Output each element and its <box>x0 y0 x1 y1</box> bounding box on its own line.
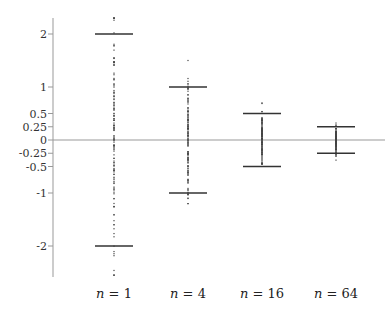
data-point <box>113 85 114 86</box>
data-point <box>113 214 114 215</box>
y-tick-label: 0.25 <box>23 121 48 134</box>
data-point <box>113 124 114 125</box>
data-point <box>187 99 188 100</box>
data-point <box>113 255 114 256</box>
y-tick-label: -0.25 <box>19 147 47 160</box>
data-point <box>335 130 336 131</box>
data-point <box>113 139 114 140</box>
data-point <box>113 20 114 21</box>
data-point <box>113 183 114 184</box>
data-point <box>187 103 188 104</box>
data-point <box>261 127 262 128</box>
data-point <box>113 79 114 80</box>
data-point <box>187 182 188 183</box>
data-point <box>335 142 336 143</box>
data-point <box>187 189 188 190</box>
data-point <box>261 142 262 143</box>
data-point <box>113 149 114 150</box>
data-point <box>113 233 114 234</box>
data-point <box>187 170 188 171</box>
data-point <box>187 136 188 137</box>
data-point <box>113 87 114 88</box>
data-point-extreme <box>187 203 188 204</box>
y-tick-label: 0.5 <box>30 108 48 121</box>
data-point <box>113 144 114 145</box>
data-point <box>261 137 262 138</box>
data-point <box>187 88 188 89</box>
chart-canvas: 210.50.250-0.25-0.5-1-2 n = 1n = 4n = 16… <box>0 0 385 309</box>
data-point <box>113 105 114 106</box>
data-point <box>113 220 114 221</box>
y-tick-label: -0.5 <box>26 161 47 174</box>
data-point <box>187 168 188 169</box>
data-point <box>113 92 114 93</box>
data-point <box>187 126 188 127</box>
data-point <box>261 159 262 160</box>
data-point <box>187 133 188 134</box>
data-point <box>187 154 188 155</box>
data-point <box>261 124 262 125</box>
data-point <box>113 203 114 204</box>
data-point <box>335 129 336 130</box>
x-category-labels: n = 1n = 4n = 16n = 64 <box>96 286 358 301</box>
data-point <box>187 128 188 129</box>
data-point <box>261 136 262 137</box>
data-point <box>113 174 114 175</box>
data-point <box>113 186 114 187</box>
data-point <box>113 170 114 171</box>
data-point <box>187 174 188 175</box>
data-point <box>187 119 188 120</box>
data-point <box>113 206 114 207</box>
data-point <box>113 115 114 116</box>
y-tick-label: -1 <box>36 187 47 200</box>
data-point <box>113 93 114 94</box>
data-point <box>187 194 188 195</box>
data-point-extreme <box>261 102 262 103</box>
data-point <box>113 142 114 143</box>
data-point <box>113 44 114 45</box>
data-point <box>187 135 188 136</box>
data-point <box>113 154 114 155</box>
data-point <box>335 144 336 145</box>
data-point <box>187 115 188 116</box>
data-point <box>113 83 114 84</box>
data-point <box>187 166 188 167</box>
data-point <box>261 156 262 157</box>
data-point <box>113 151 114 152</box>
data-point <box>113 73 114 74</box>
data-point <box>113 177 114 178</box>
y-tick-label: -2 <box>36 240 47 253</box>
data-point <box>113 190 114 191</box>
data-point <box>187 188 188 189</box>
data-point <box>113 74 114 75</box>
data-point <box>113 110 114 111</box>
data-point-extreme <box>335 160 336 161</box>
y-tick-label: 0 <box>40 134 47 147</box>
data-point <box>113 158 114 159</box>
data-point <box>113 45 114 46</box>
data-point <box>335 138 336 139</box>
data-point <box>113 198 114 199</box>
data-point <box>187 94 188 95</box>
data-point <box>113 179 114 180</box>
data-point <box>335 145 336 146</box>
data-point <box>113 130 114 131</box>
data-point <box>261 154 262 155</box>
data-point <box>187 140 188 141</box>
data-point <box>113 106 114 107</box>
data-point <box>187 130 188 131</box>
data-point <box>113 193 114 194</box>
data-point <box>113 135 114 136</box>
data-point <box>113 65 114 66</box>
data-point <box>187 108 188 109</box>
data-points <box>113 18 336 276</box>
data-point <box>113 188 114 189</box>
x-category-label: n = 1 <box>96 286 132 301</box>
data-point <box>113 165 114 166</box>
data-point <box>335 151 336 152</box>
data-point <box>261 152 262 153</box>
data-point <box>187 179 188 180</box>
data-point <box>187 122 188 123</box>
data-point <box>261 120 262 121</box>
data-point <box>113 108 114 109</box>
